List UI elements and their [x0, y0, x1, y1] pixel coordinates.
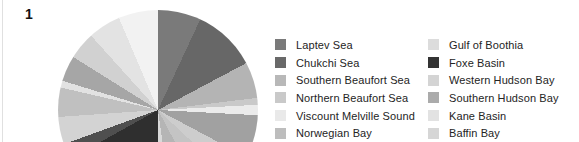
legend-label: Gulf of Boothia: [449, 39, 523, 51]
left-border-line: [2, 0, 3, 142]
legend-swatch: [275, 57, 286, 68]
legend-item: Foxe Basin: [428, 54, 559, 72]
legend-swatch: [428, 128, 439, 139]
legend-item: Norwegian Bay: [275, 124, 415, 142]
legend-column-left: Laptev Sea Chukchi Sea Southern Beaufort…: [275, 36, 415, 142]
legend-swatch: [428, 110, 439, 121]
legend-item: Chukchi Sea: [275, 54, 415, 72]
legend-label: Foxe Basin: [449, 57, 505, 69]
legend-item: Western Hudson Bay: [428, 71, 559, 89]
legend-item: Gulf of Boothia: [428, 36, 559, 54]
legend-item: Viscount Melville Sound: [275, 107, 415, 125]
legend-label: Southern Hudson Bay: [449, 92, 559, 104]
legend-item: Baffin Bay: [428, 124, 559, 142]
legend-item: Southern Hudson Bay: [428, 89, 559, 107]
legend-swatch: [428, 92, 439, 103]
legend-label: Western Hudson Bay: [449, 74, 555, 86]
legend-item: Kane Basin: [428, 107, 559, 125]
legend-label: Norwegian Bay: [296, 127, 372, 139]
legend-swatch: [428, 39, 439, 50]
legend-swatch: [275, 128, 286, 139]
legend-label: Kane Basin: [449, 110, 506, 122]
legend-swatch: [275, 92, 286, 103]
legend-label: Viscount Melville Sound: [296, 110, 415, 122]
figure-number: 1: [25, 6, 33, 22]
legend-label: Baffin Bay: [449, 127, 500, 139]
legend-label: Northern Beaufort Sea: [296, 92, 408, 104]
legend-label: Laptev Sea: [296, 39, 353, 51]
pie-chart: [58, 10, 258, 142]
legend-item: Southern Beaufort Sea: [275, 71, 415, 89]
legend-swatch: [275, 110, 286, 121]
legend-item: Northern Beaufort Sea: [275, 89, 415, 107]
legend-item: Laptev Sea: [275, 36, 415, 54]
legend-column-right: Gulf of Boothia Foxe Basin Western Hudso…: [428, 36, 559, 142]
legend-label: Chukchi Sea: [296, 57, 359, 69]
legend-swatch: [428, 75, 439, 86]
legend-swatch: [428, 57, 439, 68]
legend-swatch: [275, 39, 286, 50]
legend-swatch: [275, 75, 286, 86]
legend-label: Southern Beaufort Sea: [296, 74, 410, 86]
